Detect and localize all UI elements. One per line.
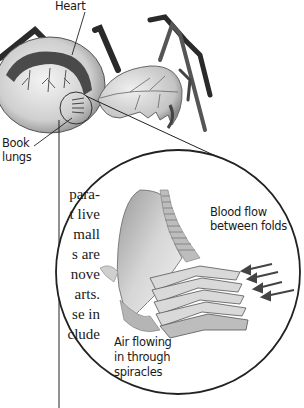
label-air-1: Air flowing: [114, 335, 172, 349]
body-line: clude: [0, 324, 100, 344]
label-blood-flow-2: between folds: [210, 219, 287, 233]
body-line: mall: [0, 224, 100, 244]
label-heart: Heart: [55, 0, 86, 13]
body-line: t live: [0, 204, 100, 224]
label-book-lungs-2: lungs: [2, 150, 32, 164]
body-line: se in: [0, 304, 100, 324]
body-text-fragment: para- t live mall s are nove arts. se in…: [0, 184, 100, 344]
body-line: arts.: [0, 284, 100, 304]
body-line: nove: [0, 264, 100, 284]
label-book-lungs-1: Book: [2, 136, 29, 150]
body-line: s are: [0, 244, 100, 264]
label-air-2: in through: [114, 350, 170, 364]
spider-abdomen: [0, 37, 105, 133]
body-line: para-: [0, 184, 100, 204]
label-blood-flow-1: Blood flow: [210, 205, 267, 219]
spider-cephalothorax: [98, 66, 182, 128]
label-air-3: spiracles: [114, 365, 162, 379]
